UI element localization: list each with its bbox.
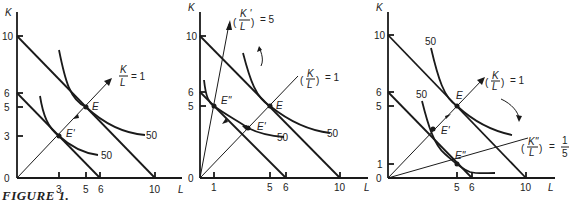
svg-text:6: 6 (188, 87, 194, 98)
y-tick-5: 5 (4, 102, 10, 113)
svg-text:L: L (529, 147, 535, 158)
svg-text:6: 6 (376, 87, 382, 98)
figure-caption: FIGURE 1. (2, 188, 69, 204)
svg-text:1: 1 (211, 182, 217, 193)
svg-text:1: 1 (562, 135, 568, 146)
arrow-head-icon (73, 114, 79, 119)
y-tick-3: 3 (4, 131, 10, 142)
svg-text:(: ( (300, 75, 304, 86)
svg-text:= 5: = 5 (260, 14, 275, 25)
svg-text:= 1: = 1 (131, 71, 146, 82)
figure-diagram: K L 10 6 5 3 0 3 5 6 10 E E' 50 (0, 0, 572, 207)
svg-text:L: L (492, 81, 498, 92)
svg-text:50: 50 (277, 132, 289, 143)
point-e (84, 105, 89, 110)
svg-text:): ) (251, 17, 254, 28)
label-e: E (92, 101, 99, 112)
y-tick-0: 0 (4, 173, 10, 184)
svg-text:): ) (316, 75, 319, 86)
svg-text:50: 50 (327, 128, 339, 139)
label-e-prime: E' (66, 128, 76, 139)
svg-text:(: ( (485, 77, 489, 88)
y-tick-6: 6 (4, 88, 10, 99)
svg-text:6: 6 (469, 182, 475, 193)
x-tick-6: 6 (98, 184, 104, 195)
svg-text:10: 10 (186, 31, 198, 42)
svg-text:6: 6 (283, 182, 289, 193)
svg-text:K: K (376, 2, 384, 13)
svg-text:): ) (539, 143, 542, 154)
svg-text:E: E (456, 90, 463, 101)
svg-text:E": E" (455, 150, 466, 161)
svg-text:5: 5 (267, 182, 273, 193)
svg-text:5: 5 (188, 101, 194, 112)
svg-text:= 1: = 1 (510, 75, 525, 86)
svg-text:L: L (240, 21, 246, 32)
svg-text:0: 0 (188, 173, 194, 184)
svg-text:5: 5 (562, 148, 568, 159)
svg-text:E': E' (441, 125, 451, 136)
svg-text:10: 10 (334, 182, 346, 193)
x-tick-10: 10 (149, 184, 161, 195)
svg-text:=: = (549, 141, 555, 152)
panel-1: K L 10 6 5 3 0 3 5 6 10 E E' 50 (2, 7, 184, 195)
svg-text:K": K" (528, 136, 539, 147)
svg-text:10: 10 (520, 182, 532, 193)
svg-text:K: K (307, 68, 315, 79)
svg-text:E': E' (257, 121, 267, 132)
svg-text:L: L (120, 77, 126, 88)
panel-3: K L 10 6 5 1 0 5 6 10 E E' E" 50 50 (374, 2, 569, 193)
svg-text:): ) (501, 77, 504, 88)
svg-text:E: E (276, 100, 283, 111)
ray-k-over-l-1 (17, 80, 110, 178)
svg-text:(: ( (521, 143, 525, 154)
svg-text:(: ( (233, 17, 237, 28)
svg-text:K: K (120, 64, 128, 75)
isoquant-label-upper: 50 (146, 130, 158, 141)
x-tick-5: 5 (83, 184, 89, 195)
svg-text:0: 0 (376, 173, 382, 184)
svg-text:L: L (548, 182, 554, 193)
k-axis-label: K (5, 7, 13, 18)
panel-2: K L 10 6 5 0 1 5 6 10 E E' E" 50 50 (186, 2, 370, 193)
svg-text:5: 5 (376, 101, 382, 112)
svg-text:K: K (492, 70, 500, 81)
svg-text:50: 50 (425, 36, 437, 47)
svg-text:50: 50 (416, 89, 428, 100)
point-e-prime (57, 134, 62, 139)
svg-text:10: 10 (374, 30, 386, 41)
svg-text:K: K (188, 2, 196, 13)
svg-text:1: 1 (377, 159, 383, 170)
svg-text:= 1: = 1 (325, 72, 340, 83)
y-tick-10: 10 (2, 31, 14, 42)
svg-text:L: L (307, 79, 313, 90)
l-axis-label: L (178, 184, 184, 195)
svg-text:L: L (364, 182, 370, 193)
svg-text:5: 5 (454, 182, 460, 193)
svg-text:E": E" (221, 95, 232, 106)
isoquant-label-lower: 50 (101, 150, 113, 161)
